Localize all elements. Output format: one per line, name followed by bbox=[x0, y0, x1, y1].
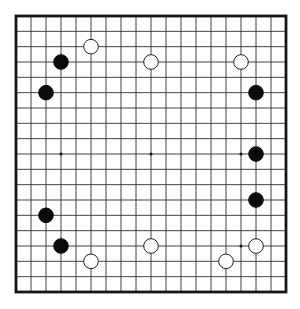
black-stone bbox=[249, 193, 264, 208]
white-stone bbox=[249, 239, 264, 254]
go-board bbox=[0, 0, 300, 309]
black-stone bbox=[54, 55, 69, 70]
white-stone bbox=[144, 239, 159, 254]
black-stone bbox=[249, 147, 264, 162]
black-stone bbox=[249, 85, 264, 100]
white-stone bbox=[84, 254, 99, 269]
white-stone bbox=[144, 55, 159, 70]
white-stone bbox=[234, 55, 249, 70]
go-diagram-page bbox=[0, 0, 300, 309]
black-stone bbox=[39, 208, 54, 223]
black-stone bbox=[54, 239, 69, 254]
star-point bbox=[240, 153, 243, 156]
star-point bbox=[240, 245, 243, 248]
black-stone bbox=[39, 85, 54, 100]
star-point bbox=[150, 153, 153, 156]
white-stone bbox=[84, 39, 99, 54]
white-stone bbox=[219, 254, 234, 269]
star-point bbox=[60, 153, 63, 156]
